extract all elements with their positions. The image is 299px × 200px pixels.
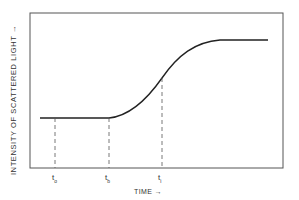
x-tick-tb: tb (105, 173, 110, 184)
tick-subscript: b (107, 178, 110, 184)
x-axis-label: TIME → (134, 188, 162, 195)
x-axis-arrow-icon: → (155, 188, 162, 195)
tick-subscript: i (160, 178, 161, 184)
x-tick-ti: ti (158, 173, 161, 184)
y-axis-label: INTENSITY OF SCATTERED LIGHT → (9, 25, 18, 175)
x-tick-t0: to (52, 173, 57, 184)
y-axis-label-text: INTENSITY OF SCATTERED LIGHT (9, 36, 18, 175)
intensity-curve (40, 40, 268, 118)
y-axis-arrow-icon: → (9, 25, 18, 33)
tick-subscript: o (54, 178, 57, 184)
sigmoid-chart (0, 0, 299, 200)
x-axis-label-text: TIME (134, 188, 152, 195)
plot-frame (30, 13, 283, 168)
